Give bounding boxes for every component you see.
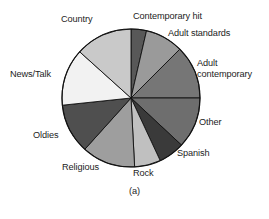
pie-label-adult-contemporary: Adultcontemporary [197,58,252,79]
pie-label-adult-standards: Adult standards [168,28,230,39]
pie-chart-figure: Country Contemporary hit Adult standards… [0,0,269,219]
pie-label-oldies: Oldies [33,130,58,141]
pie-label-spanish: Spanish [177,148,210,159]
pie-slice-group [62,29,200,167]
figure-caption: (a) [0,186,269,196]
pie-label-adult-contemporary-line2: contemporary [197,69,252,79]
pie-label-adult-contemporary-line1: Adult [197,58,217,68]
pie-label-country: Country [61,14,92,25]
pie-label-contemporary-hit: Contemporary hit [133,11,202,22]
pie-label-rock: Rock [133,168,154,179]
pie-label-other: Other [199,117,221,128]
pie-label-news-talk: News/Talk [10,69,51,80]
pie-label-religious: Religious [62,162,99,173]
